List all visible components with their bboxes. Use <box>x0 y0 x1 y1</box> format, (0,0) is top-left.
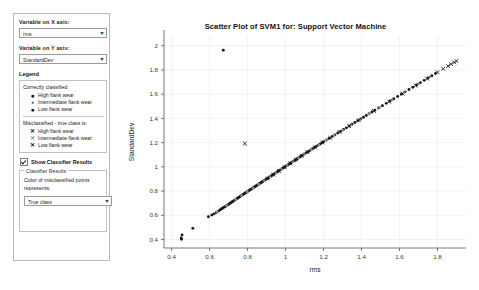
data-point <box>408 88 411 91</box>
y-axis-variable-label: Variable on Y axis: <box>19 45 105 52</box>
data-point <box>225 204 228 207</box>
data-point <box>362 116 365 119</box>
legend-item-mis-high-flank-wear: ✕ High flank wear <box>27 128 104 135</box>
x-axis-title: rms <box>310 266 322 273</box>
x-tick-label: 1.6 <box>395 253 404 260</box>
legend-item-label: Low flank wear <box>38 142 73 149</box>
legend-group-heading: Misclassified - true class is: <box>23 120 104 127</box>
data-point <box>222 49 225 52</box>
y-tick-label: 2 <box>155 42 159 49</box>
data-point <box>365 114 368 117</box>
dot-marker-icon: ● <box>27 99 38 106</box>
legend-item-label: High flank wear <box>38 128 74 135</box>
data-point <box>310 148 313 151</box>
cross-marker-icon: ✕ <box>27 142 38 149</box>
x-tick-label: 1.8 <box>433 253 442 260</box>
series-x <box>243 59 458 180</box>
legend-item-label: Low flank wear <box>38 106 73 113</box>
data-point <box>246 190 249 193</box>
legend-item-mis-low-flank-wear: ✕ Low flank wear <box>27 142 104 149</box>
legend-group-correct: Correctly classified ● High flank wear ●… <box>23 84 104 113</box>
legend-group-misclassified: Misclassified - true class is: ✕ High fl… <box>23 116 104 149</box>
legend-item-low-flank-wear: ● Low flank wear <box>27 106 104 113</box>
data-point <box>234 198 237 201</box>
show-classifier-results-label: Show Classifier Results <box>31 159 92 166</box>
x-axis-variable-label: Variable on X axis: <box>19 19 105 26</box>
classifier-results-group-title: Classifier Results <box>24 168 68 175</box>
data-point-misclassified <box>446 64 450 68</box>
legend-item-label: High flank wear <box>38 92 74 99</box>
data-point <box>325 139 328 142</box>
scatter-plot-panel: Scatter Plot of SVM1 for: Support Vector… <box>118 8 473 286</box>
scatter-plot-app: Variable on X axis: rms Variable on Y ax… <box>0 0 479 290</box>
y-axis-title: StandardDev <box>128 122 135 161</box>
legend-item-mis-intermediate-flank-wear: ✕ Intermediate flank wear <box>27 135 104 142</box>
scatter-chart: 0.40.60.811.21.41.61.80.40.60.811.21.41.… <box>118 8 473 286</box>
dot-marker-icon: ● <box>27 106 38 113</box>
legend-group-heading: Correctly classified <box>23 84 104 91</box>
data-point <box>216 210 219 213</box>
chevron-down-icon <box>100 32 104 35</box>
control-panel: Variable on X axis: rms Variable on Y ax… <box>13 13 110 261</box>
y-tick-label: 1 <box>155 163 159 170</box>
data-point <box>368 112 371 115</box>
y-axis-variable-select[interactable]: StandardDev <box>19 54 107 64</box>
x-axis-variable-value: rms <box>23 30 32 38</box>
chevron-down-icon <box>105 200 109 203</box>
legend-item-label: Intermediate flank wear <box>38 99 92 106</box>
x-tick-label: 0.6 <box>205 253 214 260</box>
misclassified-color-value: True class <box>28 198 52 206</box>
x-tick-label: 1.2 <box>319 253 328 260</box>
data-point <box>263 179 266 182</box>
y-tick-label: 1.8 <box>149 66 158 73</box>
data-point <box>317 143 320 146</box>
data-point <box>353 121 356 124</box>
show-classifier-results-checkbox[interactable]: Show Classifier Results <box>20 158 105 166</box>
data-point <box>191 227 194 230</box>
legend-box: Correctly classified ● High flank wear ●… <box>19 80 107 153</box>
y-axis-variable-value: StandardDev <box>23 56 53 64</box>
data-point <box>181 233 184 236</box>
data-point <box>381 104 384 107</box>
data-point <box>180 237 183 240</box>
data-point <box>257 183 260 186</box>
legend-item-label: Intermediate flank wear <box>38 135 92 142</box>
x-tick-label: 1.4 <box>357 253 366 260</box>
data-point <box>333 134 336 137</box>
classifier-results-group: Classifier Results Color of misclassifie… <box>19 170 107 232</box>
data-point <box>251 187 254 190</box>
y-tick-label: 0.6 <box>149 211 158 218</box>
y-tick-label: 1.2 <box>149 139 158 146</box>
misclassified-color-select[interactable]: True class <box>24 196 112 206</box>
dot-marker-icon: ● <box>27 92 38 99</box>
data-point <box>207 215 210 218</box>
classifier-results-description: Color of misclassified points represents… <box>24 177 102 192</box>
legend-item-high-flank-wear: ● High flank wear <box>27 92 104 99</box>
cross-marker-icon: ✕ <box>27 128 38 135</box>
x-tick-label: 0.4 <box>167 253 176 260</box>
y-tick-label: 0.4 <box>149 236 158 243</box>
chevron-down-icon <box>100 58 104 61</box>
data-point <box>396 95 399 98</box>
x-tick-label: 1 <box>284 253 288 260</box>
legend-title: Legend <box>19 71 105 78</box>
data-point-misclassified <box>243 142 247 146</box>
data-point <box>240 194 243 197</box>
x-axis-variable-select[interactable]: rms <box>19 28 107 38</box>
checkmark-icon <box>20 158 28 166</box>
y-tick-label: 1.4 <box>149 115 158 122</box>
legend-item-intermediate-flank-wear: ● Intermediate flank wear <box>27 99 104 106</box>
data-point <box>378 106 381 109</box>
y-tick-label: 0.8 <box>149 187 158 194</box>
y-tick-label: 1.6 <box>149 90 158 97</box>
x-tick-label: 0.8 <box>243 253 252 260</box>
cross-marker-icon: ✕ <box>27 135 38 142</box>
